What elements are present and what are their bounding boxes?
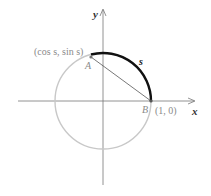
x-axis-label: x xyxy=(191,105,198,117)
point-b xyxy=(149,99,152,102)
point-b-coordinates: (1, 0) xyxy=(155,105,177,117)
arc-label: s xyxy=(138,56,143,67)
point-b-label: B xyxy=(142,104,148,115)
unit-circle-diagram: y x s (cos s, sin s) A B (1, 0) xyxy=(0,0,211,196)
point-a-coordinates: (cos s, sin s) xyxy=(34,46,83,58)
y-axis-label: y xyxy=(91,8,98,20)
point-a-label: A xyxy=(84,60,92,71)
point-a xyxy=(89,55,92,58)
